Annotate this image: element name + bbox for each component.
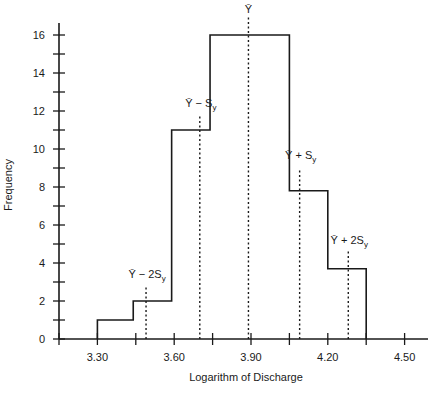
marker-label: Ȳ: [245, 3, 253, 15]
y-axis: 0246810121416: [33, 23, 65, 345]
histogram-bars: [97, 35, 366, 339]
y-tick-label: 0: [39, 333, 45, 345]
x-tick-label: 3.30: [87, 351, 108, 363]
histogram-chart: 0246810121416 3.303.603.904.204.50 Ȳ − 2…: [0, 0, 442, 395]
y-tick-label: 2: [39, 295, 45, 307]
marker-label: Ȳ − 2Sy: [128, 268, 165, 283]
statistic-markers: Ȳ − 2SyȲ − SyȲȲ + SyȲ + 2Sy: [128, 3, 368, 339]
y-tick-label: 16: [33, 29, 45, 41]
x-axis: 3.303.603.904.204.50: [59, 333, 428, 363]
y-tick-label: 8: [39, 181, 45, 193]
x-axis-title: Logarithm of Discharge: [189, 371, 303, 383]
marker-label: Ȳ + 2Sy: [331, 234, 368, 249]
x-tick-label: 3.90: [240, 351, 261, 363]
y-tick-label: 12: [33, 105, 45, 117]
y-tick-label: 14: [33, 67, 45, 79]
y-tick-label: 10: [33, 143, 45, 155]
x-tick-label: 4.20: [317, 351, 338, 363]
x-tick-label: 3.60: [163, 351, 184, 363]
marker-label: Ȳ − Sy: [185, 97, 216, 112]
histogram-outline: [97, 35, 366, 339]
x-tick-label: 4.50: [394, 351, 415, 363]
y-tick-label: 6: [39, 219, 45, 231]
y-tick-label: 4: [39, 257, 45, 269]
y-axis-title: Frequency: [2, 159, 14, 211]
